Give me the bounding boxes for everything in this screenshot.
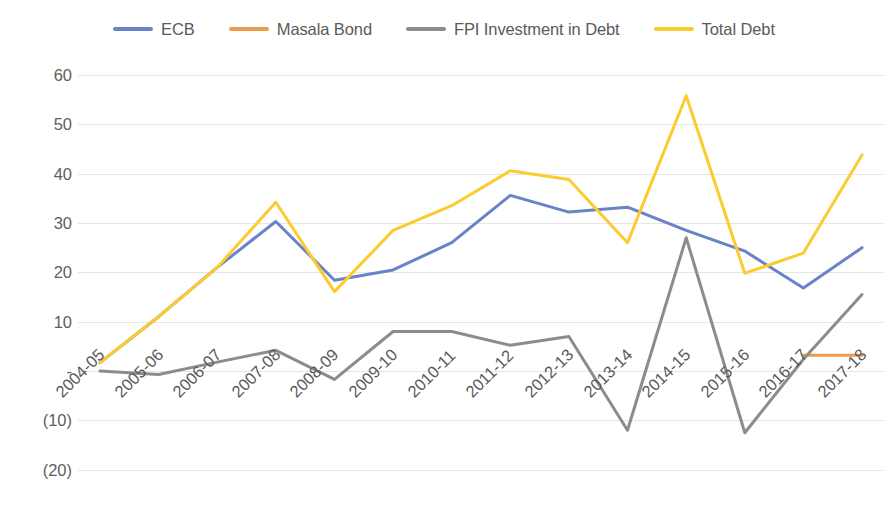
y-axis-tick-label: 50: [14, 115, 72, 134]
y-axis-tick-label: 60: [14, 66, 72, 85]
y-axis-tick-label: (10): [14, 411, 72, 430]
series-line-fpi-investment-in-debt: [100, 238, 862, 433]
y-axis-tick-label: 30: [14, 214, 72, 233]
line-chart: ECB Masala Bond FPI Investment in Debt T…: [0, 0, 888, 505]
plot-area: [0, 0, 888, 505]
y-axis-tick-label: 20: [14, 263, 72, 282]
plot-svg: [0, 0, 888, 505]
y-axis-tick-label: 10: [14, 312, 72, 331]
y-axis-tick-label: 40: [14, 164, 72, 183]
y-axis-tick-label: (20): [14, 460, 72, 479]
